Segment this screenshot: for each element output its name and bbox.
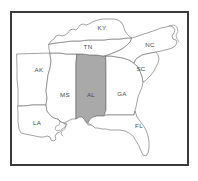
state-label-al: AL <box>87 91 95 98</box>
states-group <box>17 19 177 156</box>
state-label-fl: FL <box>135 122 143 129</box>
state-arkansas[interactable] <box>17 53 51 106</box>
southeast-us-map-figure: AKLAMSALGAFLTNKYNCSC <box>0 0 198 181</box>
state-label-nc: NC <box>145 41 155 48</box>
state-label-ky: KY <box>98 24 107 31</box>
state-label-tn: TN <box>84 43 93 50</box>
state-florida[interactable] <box>88 111 149 156</box>
state-label-sc: SC <box>136 65 145 72</box>
state-label-ak: AK <box>35 66 44 73</box>
state-mississippi[interactable] <box>46 53 77 123</box>
state-label-la: LA <box>33 119 42 126</box>
state-label-ms: MS <box>60 91 70 98</box>
state-label-ga: GA <box>117 90 127 97</box>
map-frame-border: AKLAMSALGAFLTNKYNCSC <box>10 11 189 166</box>
state-alabama[interactable] <box>76 54 106 123</box>
map-canvas: AKLAMSALGAFLTNKYNCSC <box>12 13 187 164</box>
